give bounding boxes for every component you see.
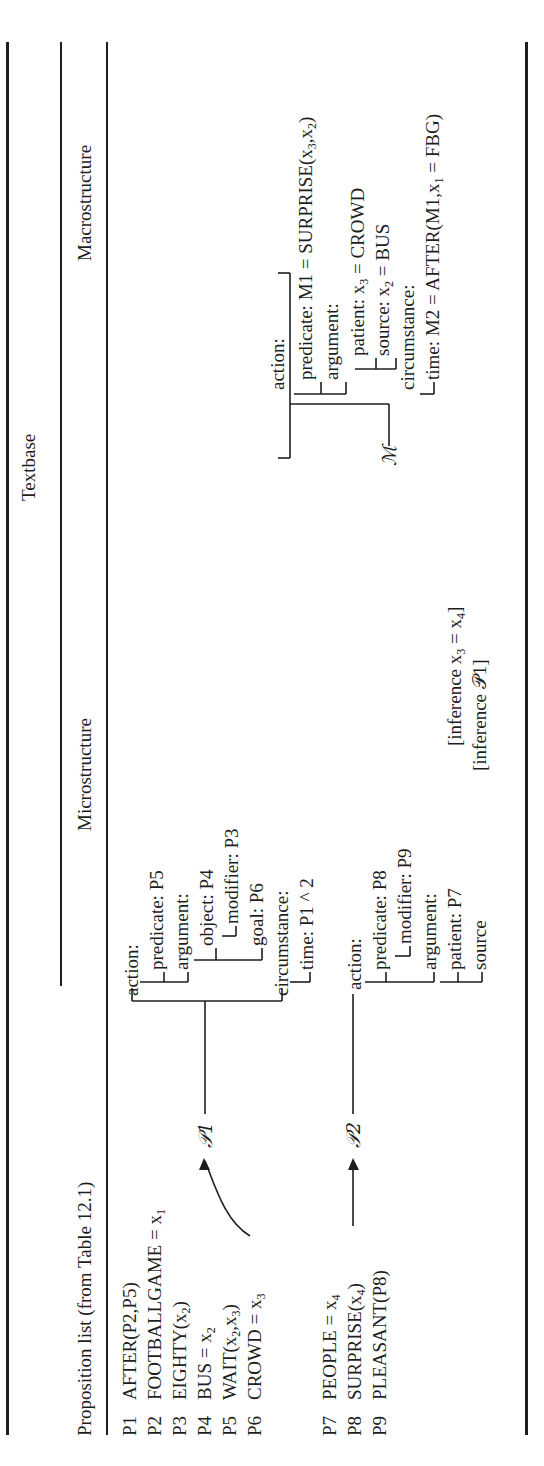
micro1-modifier: modifier: P3	[222, 828, 242, 924]
micro1-goal: goal: P6	[247, 883, 267, 946]
time-text: time: M2 = AFTER(M1,x	[422, 183, 443, 380]
micro1-argument: argument:	[172, 893, 192, 970]
sub: 2	[382, 281, 396, 287]
source-text: source: x	[372, 287, 393, 356]
patient-text: patient: x	[347, 285, 368, 356]
arrowhead-p1	[199, 1158, 210, 1170]
rotated-table: Textbase Proposition list (from Table 12…	[0, 0, 544, 1466]
end: = BUS	[372, 224, 393, 281]
sub: 3	[357, 279, 371, 285]
micro1-action: action:	[122, 944, 142, 996]
macro-predicate-text: predicate: M1 = SURPRISE(x	[295, 149, 316, 380]
inference-text: [inference x	[444, 655, 465, 746]
m-label: ℳ	[379, 446, 399, 466]
macro-action: action:	[268, 338, 288, 390]
macro-predicate: predicate: M1 = SURPRISE(x3,x2)	[296, 117, 316, 380]
inference-sub2: 4	[454, 613, 468, 619]
micro2-action: action:	[345, 938, 365, 990]
micro2-argument: argument:	[420, 893, 440, 970]
sub: 1	[432, 177, 446, 183]
sub: 3	[305, 143, 319, 149]
inference-end: ]	[444, 607, 465, 613]
inference-sub: 3	[454, 649, 468, 655]
micro2-inference-1: [inference x3 = x4]	[445, 607, 465, 746]
macro-source: source: x2 = BUS	[373, 224, 393, 356]
micro2-predicate: predicate: P8	[370, 870, 390, 970]
p1-label: 𝒫1	[195, 1122, 215, 1148]
mid: ,x	[295, 129, 316, 143]
micro2-modifier: modifier: P9	[395, 848, 415, 944]
micro2-source: source	[470, 920, 490, 970]
micro1-time: time: P1 ^ 2	[297, 878, 317, 970]
micro1-circumstance: circumstance:	[272, 890, 292, 996]
micro2-inference-2: [inference 𝒫1]	[470, 659, 490, 771]
p2-label: 𝒫2	[343, 1122, 363, 1148]
end: = FBG)	[422, 114, 443, 178]
macro-time: time: M2 = AFTER(M1,x1 = FBG)	[423, 114, 443, 380]
micro2-patient: patient: P7	[445, 888, 465, 970]
end: )	[295, 117, 316, 123]
arrowhead-p2	[348, 1158, 359, 1170]
sub: 2	[305, 123, 319, 129]
macro-argument: argument:	[322, 303, 342, 380]
macro-patient: patient: x3 = CROWD	[348, 188, 368, 356]
inference-tail: = x	[444, 619, 465, 649]
end: = CROWD	[347, 188, 368, 279]
micro1-predicate: predicate: P5	[147, 870, 167, 970]
micro1-object: object: P4	[197, 869, 217, 946]
macro-circumstance: circumstance:	[398, 284, 418, 390]
